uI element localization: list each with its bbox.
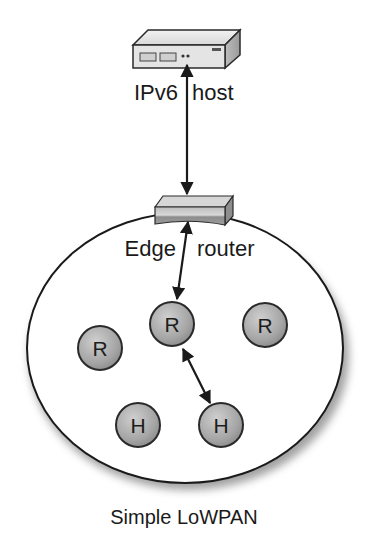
node-label: H bbox=[213, 414, 228, 437]
node-label: R bbox=[164, 313, 179, 336]
node-router-right: R bbox=[243, 303, 287, 347]
node-host-left: H bbox=[116, 403, 160, 447]
host-label-left: IPv6 bbox=[134, 80, 178, 105]
node-host-right: H bbox=[199, 403, 243, 447]
edge-router-label-right: router bbox=[197, 236, 254, 261]
edge-router-label-left: Edge bbox=[125, 236, 176, 261]
lowpan-diagram: R R R H H IPv6 host Edge router Simple L… bbox=[0, 0, 371, 550]
network-label: Simple LoWPAN bbox=[110, 506, 257, 528]
edge-router-device-icon bbox=[155, 196, 233, 225]
node-label: H bbox=[130, 414, 145, 437]
ipv6-host-device-icon bbox=[133, 30, 240, 68]
node-label: R bbox=[257, 314, 272, 337]
lowpan-boundary bbox=[27, 213, 349, 490]
node-router-center: R bbox=[150, 302, 194, 346]
host-label-right: host bbox=[192, 80, 234, 105]
node-label: R bbox=[92, 337, 107, 360]
node-router-left: R bbox=[78, 326, 122, 370]
